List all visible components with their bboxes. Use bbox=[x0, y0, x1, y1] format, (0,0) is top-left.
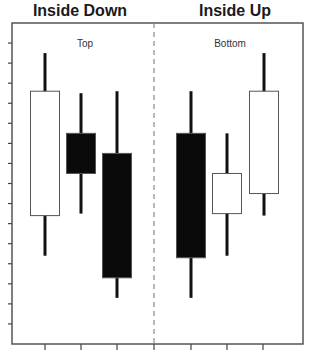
candlestick-chart bbox=[0, 0, 313, 360]
candle-body bbox=[177, 133, 206, 257]
candle-body bbox=[67, 133, 96, 173]
candle-6 bbox=[250, 53, 279, 216]
candle-body bbox=[213, 173, 242, 213]
candle-body bbox=[103, 153, 132, 277]
candle-2 bbox=[67, 93, 96, 213]
candle-1 bbox=[31, 53, 60, 256]
candle-5 bbox=[213, 133, 242, 255]
x-axis-ticks bbox=[45, 344, 263, 350]
candle-body bbox=[31, 91, 60, 215]
candle-body bbox=[250, 91, 279, 193]
candle-4 bbox=[177, 91, 206, 298]
candle-3 bbox=[103, 91, 132, 298]
